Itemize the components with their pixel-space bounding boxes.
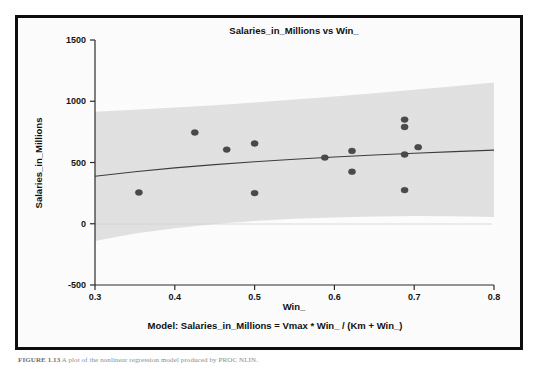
x-tick-label: 0.3 xyxy=(89,292,102,302)
data-point xyxy=(251,190,258,196)
data-point xyxy=(321,155,328,161)
y-tick-label: -500 xyxy=(68,280,86,290)
caption-label: FIGURE 1.13 xyxy=(18,356,60,364)
x-tick-label: 0.4 xyxy=(169,292,182,302)
y-tick-label: 0 xyxy=(81,219,86,229)
x-tick-label: 0.8 xyxy=(488,292,501,302)
data-point xyxy=(251,141,258,147)
data-point xyxy=(415,144,422,150)
scatter-plot: -500050010001500 0.30.40.50.60.70.8 Sala… xyxy=(0,0,538,365)
data-point xyxy=(401,124,408,130)
data-point xyxy=(348,169,355,175)
model-equation: Model: Salaries_in_Millions = Vmax * Win… xyxy=(148,320,403,331)
x-tick-label: 0.5 xyxy=(248,292,261,302)
x-tick-label: 0.6 xyxy=(328,292,341,302)
y-tick-label: 500 xyxy=(71,158,86,168)
data-point xyxy=(401,152,408,158)
data-point xyxy=(401,117,408,123)
data-point xyxy=(191,130,198,136)
x-axis-title: Win_ xyxy=(283,301,306,312)
caption-text: A plot of the nonlinear regression model… xyxy=(62,356,258,364)
data-point xyxy=(401,187,408,193)
y-tick-label: 1000 xyxy=(66,96,86,106)
chart-title: Salaries_in_Millions vs Win_ xyxy=(229,25,359,36)
y-axis-title: Salaries_in_Millions xyxy=(33,118,44,209)
figure-caption: FIGURE 1.13 A plot of the nonlinear regr… xyxy=(18,356,518,364)
data-point xyxy=(135,190,142,196)
x-axis-ticks: 0.30.40.50.60.70.8 xyxy=(89,285,501,302)
y-tick-label: 1500 xyxy=(66,35,86,45)
data-point xyxy=(223,147,230,153)
y-axis-ticks: -500050010001500 xyxy=(66,35,95,290)
confidence-band xyxy=(95,83,494,241)
x-tick-label: 0.7 xyxy=(408,292,421,302)
data-point xyxy=(348,148,355,154)
